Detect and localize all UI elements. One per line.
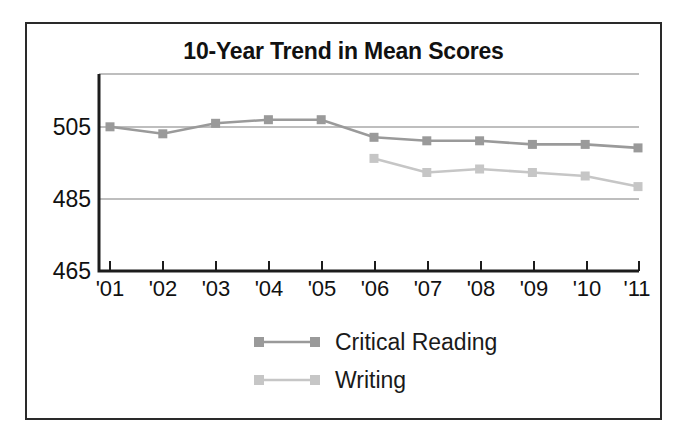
data-point-marker xyxy=(475,136,484,145)
xtick-label-02: '02 xyxy=(149,276,178,301)
data-point-marker xyxy=(158,129,167,138)
data-point-marker xyxy=(422,136,431,145)
data-point-marker xyxy=(475,165,484,174)
series-line-writing xyxy=(374,158,638,186)
xtick-label-03: '03 xyxy=(202,276,231,301)
data-point-marker xyxy=(264,115,273,124)
data-point-marker xyxy=(422,168,431,177)
legend-label: Critical Reading xyxy=(335,329,497,355)
data-point-marker xyxy=(211,119,220,128)
xtick-label-01: '01 xyxy=(96,276,125,301)
xtick-label-04: '04 xyxy=(255,276,284,301)
legend-marker xyxy=(254,375,264,385)
data-point-marker xyxy=(106,122,115,131)
xtick-label-08: '08 xyxy=(467,276,496,301)
data-point-marker xyxy=(581,140,590,149)
data-point-marker xyxy=(317,115,326,124)
xtick-label-10: '10 xyxy=(573,276,602,301)
chart-legend: Critical ReadingWriting xyxy=(254,329,497,393)
data-point-marker xyxy=(370,133,379,142)
data-point-marker xyxy=(581,172,590,181)
data-point-marker xyxy=(528,140,537,149)
legend-marker xyxy=(310,337,320,347)
ytick-label-485: 485 xyxy=(53,186,91,212)
xtick-label-06: '06 xyxy=(361,276,390,301)
legend-marker xyxy=(310,375,320,385)
xtick-label-09: '09 xyxy=(520,276,549,301)
xtick-label-07: '07 xyxy=(414,276,443,301)
ytick-label-505: 505 xyxy=(53,114,91,140)
axis-lines xyxy=(99,74,639,271)
y-axis-labels: 505 485 465 xyxy=(53,114,91,284)
data-point-marker xyxy=(370,154,379,163)
legend-label: Writing xyxy=(335,367,406,393)
ytick-label-465: 465 xyxy=(53,258,91,284)
line-chart-plot: 505 485 465 '01 '02 '03 '04 '05 '06 '07 … xyxy=(27,24,660,418)
data-point-marker xyxy=(634,182,643,191)
chart-figure-frame: 10-Year Trend in Mean Scores 505 xyxy=(25,22,662,420)
x-axis-labels: '01 '02 '03 '04 '05 '06 '07 '08 '09 '10 … xyxy=(96,276,651,301)
legend-marker xyxy=(254,337,264,347)
xtick-label-11: '11 xyxy=(623,276,650,301)
data-point-marker xyxy=(634,143,643,152)
xtick-label-05: '05 xyxy=(308,276,337,301)
data-point-marker xyxy=(528,168,537,177)
